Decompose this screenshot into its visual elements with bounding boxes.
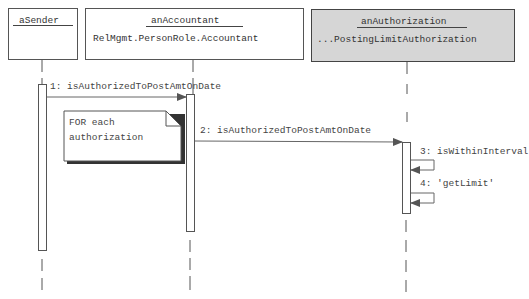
object-name-underline (357, 27, 467, 28)
object-class-anaccountant: RelMgmt.PersonRole.Accountant (93, 33, 258, 44)
note-text: FOR each authorization (69, 115, 143, 145)
message-3-self-arrow (410, 160, 434, 170)
note-line-1: FOR each (69, 115, 143, 130)
object-name-anauthorization: anAuthorization (361, 16, 447, 27)
activation-bar-anauthorization (402, 142, 411, 214)
lifeline-head-anaccountant[interactable]: anAccountant RelMgmt.PersonRole.Accounta… (85, 8, 304, 60)
lifeline-head-anauthorization[interactable]: anAuthorization ...PostingLimitAuthoriza… (311, 9, 515, 62)
object-name-underline (146, 26, 243, 27)
activation-bar-asender (38, 84, 47, 251)
object-name-anaccountant: anAccountant (151, 15, 219, 26)
activation-bar-anaccountant (186, 94, 195, 232)
object-class-anauthorization: ...PostingLimitAuthorization (317, 34, 477, 45)
message-2-arrow (194, 141, 402, 142)
message-1-label[interactable]: 1: isAuthorizedToPostAmtOnDate (50, 81, 221, 92)
message-4-label[interactable]: 4: 'getLimit' (420, 178, 494, 189)
note-line-2: authorization (69, 130, 143, 145)
message-2-label[interactable]: 2: isAuthorizedToPostAmtOnDate (200, 125, 371, 136)
message-3-label[interactable]: 3: isWithinInterval (420, 146, 528, 157)
lifeline-head-asender[interactable]: aSender (8, 8, 78, 60)
message-4-self-arrow (410, 193, 434, 203)
object-name-underline (13, 25, 73, 26)
